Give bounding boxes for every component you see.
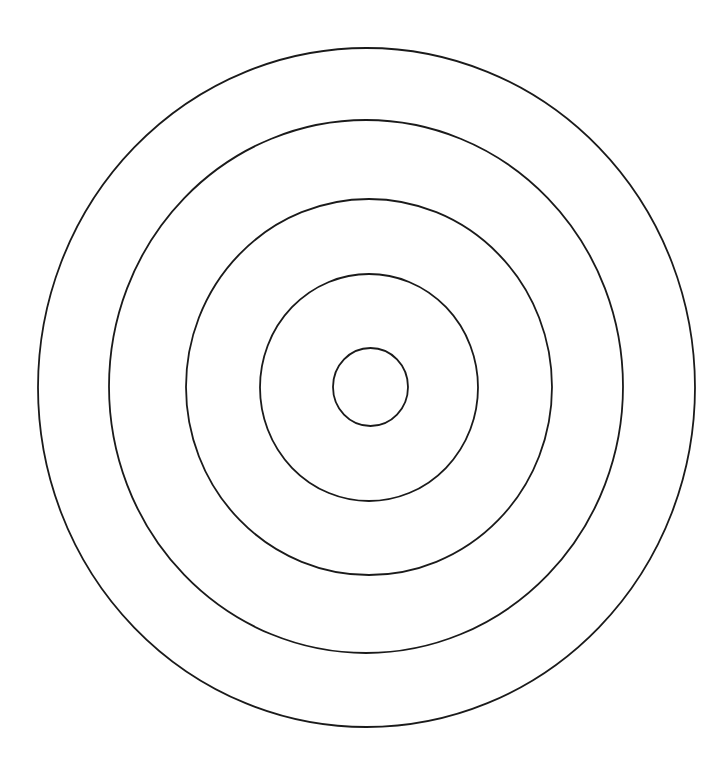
concentric-circles-diagram xyxy=(0,0,727,770)
